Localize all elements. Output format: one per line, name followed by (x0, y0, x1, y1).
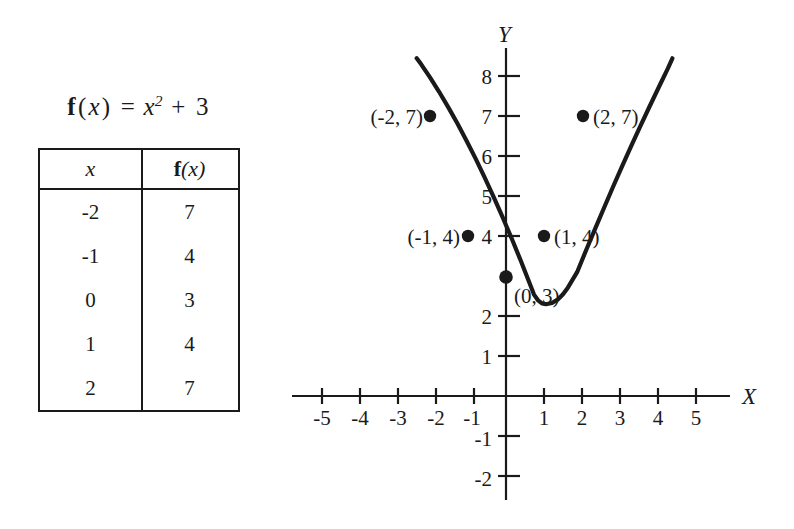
table-cell-x: 1 (40, 322, 141, 366)
graph-panel: X Y -5 -4 -3 -2 -1 1 2 3 4 5 8 7 6 5 (280, 0, 794, 529)
table-row: 2 7 (40, 366, 238, 410)
table-cell-x: 0 (40, 278, 141, 322)
formula-plus: + (169, 93, 187, 120)
table-cell-x: 2 (40, 366, 141, 410)
table-row: -2 7 (40, 190, 238, 234)
table-cell-x: -1 (40, 234, 141, 278)
y-tick-label-8: 8 (482, 65, 493, 89)
table-row: 0 3 (40, 278, 238, 322)
function-formula: f(x) = x2 + 3 (0, 94, 278, 119)
x-tick-label-3: 3 (615, 406, 626, 430)
value-table: x f(x) -2 7 -1 4 0 3 1 4 (38, 148, 240, 412)
y-axis-label: Y (498, 22, 513, 47)
table-cell-fx: 7 (141, 190, 238, 234)
formula-exponent: 2 (155, 92, 163, 109)
y-tick-label--1: -1 (475, 427, 493, 451)
table-row: 1 4 (40, 322, 238, 366)
formula-paren-close: ) (100, 93, 113, 120)
formula-rhs-variable: x (143, 93, 154, 120)
table-header-fx-name: f (174, 156, 181, 182)
table-header-fx: f(x) (141, 150, 238, 188)
point-1-4 (538, 230, 550, 242)
point-0-3 (499, 270, 513, 284)
parabola-curve (417, 58, 673, 304)
table-row: -1 4 (40, 234, 238, 278)
point-label-1-4: (1, 4) (554, 225, 600, 249)
table-header-x: x (40, 150, 141, 188)
table-header-fx-arg: (x) (181, 156, 205, 182)
y-tick-label-7: 7 (482, 105, 493, 129)
table-cell-fx: 7 (141, 366, 238, 410)
y-tick-label-1: 1 (482, 345, 493, 369)
formula-lhs-variable: x (88, 93, 99, 120)
formula-equals: = (119, 93, 137, 120)
point-label-2-7: (2, 7) (593, 105, 639, 129)
table-header-row: x f(x) (40, 150, 238, 188)
x-tick-label-2: 2 (577, 406, 588, 430)
table-body: -2 7 -1 4 0 3 1 4 2 7 (40, 190, 238, 410)
point--2-7 (424, 110, 436, 122)
y-tick-label-2: 2 (482, 305, 493, 329)
table-cell-fx: 4 (141, 322, 238, 366)
x-tick-labels: -5 -4 -3 -2 -1 1 2 3 4 5 (313, 406, 701, 430)
point-label-0-3: (0, 3) (514, 284, 560, 308)
x-tick-label--4: -4 (351, 406, 369, 430)
formula-function-name: f (67, 93, 76, 120)
y-tick-label-4: 4 (482, 225, 493, 249)
x-tick-label-4: 4 (653, 406, 664, 430)
formula-paren-open: ( (76, 93, 89, 120)
table-cell-fx: 3 (141, 278, 238, 322)
x-axis-label: X (741, 384, 757, 409)
parabola-graph: X Y -5 -4 -3 -2 -1 1 2 3 4 5 8 7 6 5 (280, 0, 794, 529)
point-2-7 (577, 110, 589, 122)
table-cell-fx: 4 (141, 234, 238, 278)
x-tick-label--5: -5 (313, 406, 331, 430)
y-tick-label-6: 6 (482, 145, 493, 169)
x-tick-label-5: 5 (691, 406, 702, 430)
table-panel: f(x) = x2 + 3 x f(x) -2 7 -1 4 0 (0, 0, 280, 529)
table-cell-x: -2 (40, 190, 141, 234)
point-label--2-7: (-2, 7) (371, 105, 423, 129)
y-tick-label--2: -2 (475, 467, 493, 491)
x-tick-label--2: -2 (427, 406, 445, 430)
point-label--1-4: (-1, 4) (408, 225, 460, 249)
y-tick-labels: 8 7 6 5 4 2 1 -1 -2 (475, 65, 493, 491)
figure-root: f(x) = x2 + 3 x f(x) -2 7 -1 4 0 (0, 0, 794, 529)
point--1-4 (462, 230, 474, 242)
x-tick-label--3: -3 (389, 406, 407, 430)
x-tick-label-1: 1 (539, 406, 550, 430)
formula-constant: 3 (194, 93, 211, 120)
